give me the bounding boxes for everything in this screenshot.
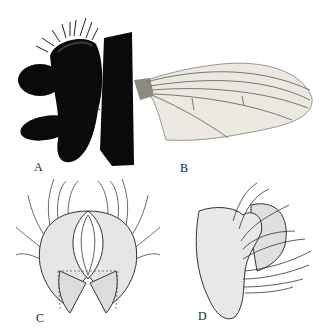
panel-a: A <box>0 0 140 175</box>
panel-label-d: D <box>198 310 207 322</box>
panel-label-c: C <box>36 312 44 324</box>
head-silhouette-illustration <box>0 0 140 175</box>
wing-illustration <box>132 50 322 180</box>
genitalia-lateral-illustration <box>185 175 322 330</box>
genitalia-ventral-illustration <box>10 175 170 330</box>
panel-c: C <box>10 175 170 330</box>
figure-plate: A B <box>0 0 322 335</box>
panel-b: B <box>132 50 322 180</box>
panel-label-b: B <box>180 162 188 174</box>
panel-d: D <box>185 175 322 330</box>
panel-label-a: A <box>34 161 43 173</box>
